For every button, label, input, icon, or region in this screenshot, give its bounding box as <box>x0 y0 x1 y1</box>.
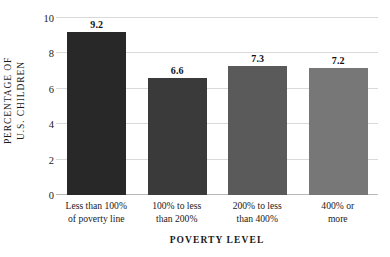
y-tick-label-8: 8 <box>28 48 54 59</box>
plot-area: 9.26.67.37.2 <box>56 18 378 195</box>
bar[interactable] <box>309 68 368 195</box>
bar-value-label: 7.3 <box>228 53 287 64</box>
y-tick-label-6: 6 <box>28 83 54 94</box>
x-tick-label-line: than 400% <box>215 212 299 225</box>
x-tick-label-line: 100% to less <box>135 199 219 212</box>
x-tick-label-line: than 200% <box>135 212 219 225</box>
y-tick-label-4: 4 <box>28 119 54 130</box>
bar-value-label: 6.6 <box>148 65 207 76</box>
x-tick-label: 100% to lessthan 200% <box>135 199 219 225</box>
x-tick-label-line: 200% to less <box>215 199 299 212</box>
y-tick-label-0: 0 <box>28 190 54 201</box>
y-tick-label-2: 2 <box>28 154 54 165</box>
bar-group[interactable]: 6.6 <box>148 18 207 195</box>
x-axis-tick-labels: Less than 100%of poverty line100% to les… <box>56 199 378 233</box>
bar-group[interactable]: 7.2 <box>309 18 368 195</box>
bar-chart: PERCENTAGE OF U.S. CHILDREN 0246810 9.26… <box>0 0 390 257</box>
bar[interactable] <box>228 66 287 195</box>
x-tick-label-line: more <box>296 212 380 225</box>
x-tick-label-line: of poverty line <box>54 212 138 225</box>
y-tick-label-10: 10 <box>28 13 54 24</box>
y-axis-title: PERCENTAGE OF U.S. CHILDREN <box>0 0 30 200</box>
x-tick-label-line: Less than 100% <box>54 199 138 212</box>
bar-value-label: 7.2 <box>309 55 368 66</box>
bar-value-label: 9.2 <box>67 19 126 30</box>
x-tick-label: 400% ormore <box>296 199 380 225</box>
x-tick-label: 200% to lessthan 400% <box>215 199 299 225</box>
x-tick-label: Less than 100%of poverty line <box>54 199 138 225</box>
y-axis-title-line-2: U.S. CHILDREN <box>15 56 28 143</box>
bar-group[interactable]: 9.2 <box>67 18 126 195</box>
y-axis-title-line-1: PERCENTAGE OF <box>3 56 16 143</box>
x-axis-title: POVERTY LEVEL <box>56 235 378 245</box>
bar[interactable] <box>67 32 126 195</box>
bar[interactable] <box>148 78 207 195</box>
bar-series: 9.26.67.37.2 <box>56 18 378 195</box>
bar-group[interactable]: 7.3 <box>228 18 287 195</box>
x-tick-label-line: 400% or <box>296 199 380 212</box>
